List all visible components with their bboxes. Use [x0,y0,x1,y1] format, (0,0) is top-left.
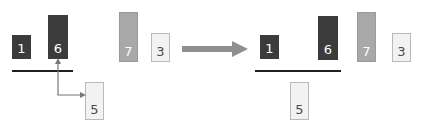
bar-label: 5 [90,103,98,116]
sorted-region-rule-after [255,70,341,72]
bar-before-1: 1 [12,35,31,59]
bar-after-5-removed: 5 [290,82,309,120]
bar-label: 6 [324,43,332,56]
bar-before-7: 7 [119,12,138,62]
bar-before-5-removed: 5 [85,82,104,120]
transition-arrow-icon [180,40,250,58]
bar-label: 1 [17,42,25,55]
bar-before-6: 6 [48,15,68,59]
bar-after-6: 6 [318,16,338,60]
bar-label: 3 [397,45,405,58]
bar-before-3: 3 [151,33,170,62]
bar-label: 3 [156,45,164,58]
sorted-region-rule-before [12,70,73,72]
bar-after-7: 7 [357,12,376,62]
bar-label: 7 [362,45,370,58]
bar-label: 6 [54,42,62,55]
diagram-canvas: 1 6 7 3 5 1 6 [0,0,427,135]
bar-label: 5 [295,103,303,116]
bar-label: 1 [265,42,273,55]
bar-after-1: 1 [260,35,279,59]
bar-after-3: 3 [392,33,411,62]
bar-label: 7 [124,45,132,58]
